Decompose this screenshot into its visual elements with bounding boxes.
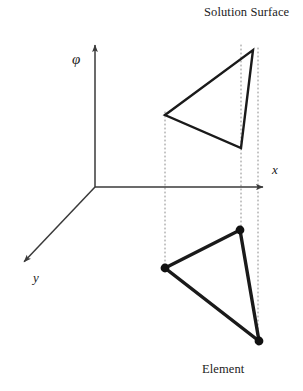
axis-y-line <box>24 187 95 262</box>
solution-surface-outline <box>165 50 253 148</box>
element-outline <box>165 230 259 341</box>
element-node-top <box>236 226 245 235</box>
element-node-left <box>161 264 170 273</box>
solution-surface-element-diagram: Solution Surface Element φ x y <box>0 0 303 391</box>
element-node-bottom-right <box>255 337 264 346</box>
axis-label-y: y <box>33 271 39 284</box>
projection-lines-group <box>165 45 258 345</box>
axes-group <box>24 45 263 262</box>
element-label: Element <box>202 363 244 376</box>
solution-surface-label: Solution Surface <box>204 6 289 19</box>
diagram-canvas <box>0 0 303 391</box>
element-triangle <box>161 226 264 346</box>
solution-surface-triangle <box>165 50 253 148</box>
axis-label-x: x <box>272 163 278 176</box>
axis-label-phi: φ <box>72 52 80 67</box>
